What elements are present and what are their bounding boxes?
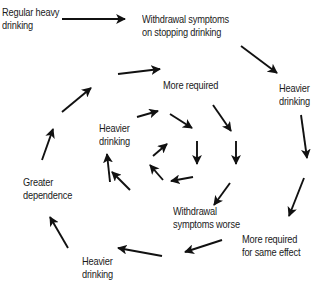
node-text-line: drinking bbox=[99, 135, 130, 148]
arrow-icon bbox=[301, 115, 307, 158]
node-text-line: dependence bbox=[23, 189, 72, 202]
arrow-icon bbox=[62, 88, 91, 112]
node-text-line: More required bbox=[242, 233, 300, 246]
node-text-line: Heavier bbox=[279, 82, 310, 95]
arrow-icon bbox=[171, 177, 193, 181]
node-text-line: Heavier bbox=[99, 122, 130, 135]
node-text-line: More required bbox=[163, 79, 218, 92]
arrow-icon bbox=[112, 172, 130, 190]
node-more-required-same-effect: More required for same effect bbox=[242, 233, 300, 259]
node-withdrawal-symptoms-worse: Withdrawal symptoms worse bbox=[173, 205, 240, 231]
node-text-line: drinking bbox=[2, 19, 59, 32]
arrow-icon bbox=[42, 129, 53, 160]
arrow-icon bbox=[137, 111, 158, 117]
arrow-icon bbox=[107, 154, 110, 182]
arrow-icon bbox=[241, 46, 277, 73]
arrow-icon bbox=[185, 240, 222, 252]
node-text-line: Greater bbox=[23, 176, 72, 189]
arrow-icon bbox=[150, 165, 163, 180]
arrow-icon bbox=[153, 144, 167, 156]
arrow-icon bbox=[170, 114, 192, 128]
node-text-line: Regular heavy bbox=[2, 6, 59, 19]
node-text-line: drinking bbox=[279, 95, 310, 108]
node-text-line: on stopping drinking bbox=[142, 26, 229, 39]
arrow-icon bbox=[213, 105, 231, 131]
addiction-spiral-diagram: Regular heavy drinking Withdrawal sympto… bbox=[0, 0, 319, 296]
node-text-line: for same effect bbox=[242, 246, 300, 259]
node-text-line: Heavier bbox=[82, 255, 113, 268]
arrow-icon bbox=[214, 183, 230, 205]
node-heavier-drinking-inner: Heavier drinking bbox=[99, 122, 130, 148]
node-more-required-inner: More required bbox=[163, 79, 218, 92]
node-heavier-drinking-bottom: Heavier drinking bbox=[82, 255, 113, 281]
node-text-line: drinking bbox=[82, 268, 113, 281]
node-text-line: Withdrawal bbox=[173, 205, 240, 218]
node-text-line: symptoms worse bbox=[173, 218, 240, 231]
node-greater-dependence: Greater dependence bbox=[23, 176, 72, 202]
arrow-icon bbox=[50, 217, 68, 248]
node-text-line: Withdrawal symptoms bbox=[142, 13, 229, 26]
arrow-icon bbox=[118, 69, 160, 74]
arrow-icon bbox=[289, 178, 304, 216]
node-withdrawal-on-stopping: Withdrawal symptoms on stopping drinking bbox=[142, 13, 229, 39]
node-heavier-drinking-right: Heavier drinking bbox=[279, 82, 310, 108]
node-regular-heavy-drinking: Regular heavy drinking bbox=[2, 6, 59, 32]
arrow-icon bbox=[118, 248, 162, 256]
